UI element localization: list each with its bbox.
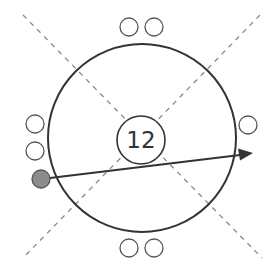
arrowhead-icon: [238, 149, 253, 161]
seat-left-upper: [26, 115, 44, 133]
seat-right: [239, 116, 257, 134]
round-table-diagram: 12: [0, 0, 278, 268]
seat-bottom-left: [120, 239, 138, 257]
seat-bottom-right: [145, 239, 163, 257]
center-label: 12: [126, 127, 155, 153]
seat-top-right: [145, 18, 163, 36]
seat-left-filled-start: [32, 170, 50, 188]
seat-top-left: [120, 18, 138, 36]
seat-left-middle: [26, 142, 44, 160]
